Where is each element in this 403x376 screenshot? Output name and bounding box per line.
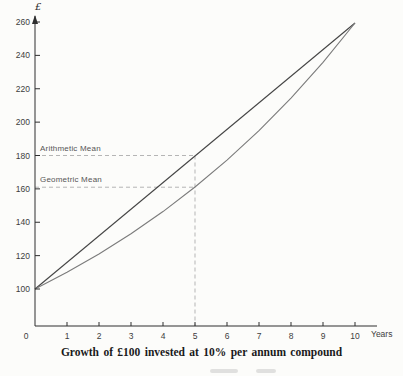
x-tick-label: 0 xyxy=(24,331,29,341)
x-tick-label: 6 xyxy=(225,331,230,341)
y-tick-label: 260 xyxy=(16,17,30,27)
x-tick-label: 10 xyxy=(350,331,360,341)
x-tick-label: 1 xyxy=(65,331,70,341)
y-tick-label: 200 xyxy=(16,117,30,127)
x-tick-label: 9 xyxy=(321,331,326,341)
y-tick-label: 160 xyxy=(16,184,30,194)
y-tick-label: 240 xyxy=(16,50,30,60)
y-axis-unit-label: £ xyxy=(35,1,41,12)
cutoff-text-artifact xyxy=(210,369,238,373)
geometric-mean-label: Geometric Mean xyxy=(40,175,102,184)
x-tick-label: 7 xyxy=(257,331,262,341)
x-tick-label: 3 xyxy=(129,331,134,341)
plot-canvas: 100120140160180200220240260012345678910 xyxy=(0,0,403,376)
x-tick-label: 8 xyxy=(289,331,294,341)
y-tick-label: 180 xyxy=(16,151,30,161)
arithmetic-mean-label: Arithmetic Mean xyxy=(40,144,101,153)
cutoff-text-artifact xyxy=(256,369,276,373)
y-tick-label: 140 xyxy=(16,217,30,227)
x-axis-unit-label: Years xyxy=(371,329,392,339)
x-tick-label: 5 xyxy=(193,331,198,341)
figure-page: 100120140160180200220240260012345678910 … xyxy=(0,0,403,376)
y-tick-label: 220 xyxy=(16,84,30,94)
y-tick-label: 120 xyxy=(16,251,30,261)
x-tick-label: 4 xyxy=(161,331,166,341)
y-axis-arrow xyxy=(32,15,38,24)
x-tick-label: 2 xyxy=(97,331,102,341)
y-tick-label: 100 xyxy=(16,284,30,294)
figure-caption: Growth of £100 invested at 10% per annum… xyxy=(0,346,403,358)
